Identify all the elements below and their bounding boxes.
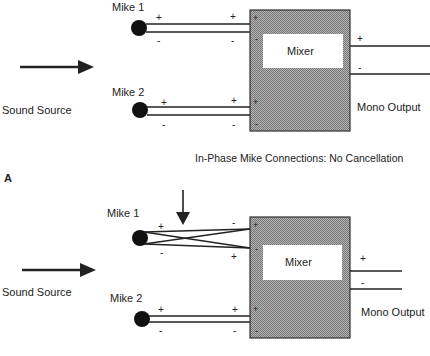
mike2-label-b: Mike 2	[110, 292, 142, 304]
mixer-label-b: Mixer	[285, 256, 312, 268]
mike2-far-neg-b: -	[233, 325, 236, 336]
mixer-label: Mixer	[287, 45, 314, 57]
output-neg-label-b: -	[361, 277, 364, 288]
sound-source-arrow-icon	[20, 60, 94, 74]
mike1-near-pos: +	[156, 12, 162, 23]
mike2-icon	[132, 102, 148, 118]
sound-source-label-b: Sound Source	[2, 286, 72, 298]
diagram-b: Sound Source Mike 1 + - - + Mike 2 + - +…	[2, 190, 425, 338]
mike1-far-top-b: -	[232, 217, 235, 228]
mono-output-label-b: Mono Output	[361, 306, 425, 318]
mono-output-label: Mono Output	[357, 101, 421, 113]
mixer-box-b: Mixer + - + -	[250, 217, 350, 338]
mike1-far-pos: +	[230, 11, 236, 22]
diagram-a: Sound Source Mike 1 + - + - Mike 2 + - +…	[2, 1, 430, 184]
mike1-icon	[131, 20, 147, 36]
mike1-near-neg-b: -	[160, 247, 163, 258]
phase-diagram: Sound Source Mike 1 + - + - Mike 2 + - +…	[0, 0, 430, 356]
mixer-in1-neg-b: -	[255, 244, 258, 254]
mike2-far-pos: +	[231, 95, 237, 106]
mixer-in2-pos: +	[253, 97, 258, 107]
sound-source-label: Sound Source	[2, 104, 72, 116]
mixer-in2-neg: -	[255, 119, 258, 129]
mike1-near-neg: -	[157, 35, 160, 46]
mixer-in1-pos-b: +	[253, 220, 258, 230]
output-neg-label: -	[358, 62, 361, 73]
mike2-near-pos: +	[161, 97, 167, 108]
mike2-near-neg: -	[162, 119, 165, 130]
down-arrow-icon	[176, 190, 190, 225]
mike2-far-neg: -	[232, 119, 235, 130]
mike2-near-pos-b: +	[158, 304, 164, 315]
mixer-box: Mixer + - + -	[250, 10, 350, 131]
mike1-label: Mike 1	[112, 1, 144, 13]
mike1-label-b: Mike 1	[107, 207, 139, 219]
mixer-in1-pos: +	[253, 13, 258, 23]
mike1-far-bottom-b: +	[231, 251, 237, 262]
mike2-label: Mike 2	[112, 86, 144, 98]
caption-a: In-Phase Mike Connections: No Cancellati…	[195, 152, 404, 164]
mike2-near-neg-b: -	[159, 325, 162, 336]
output-pos-label: +	[357, 33, 363, 44]
sound-source-arrow-icon	[22, 263, 96, 277]
mike1-far-neg: -	[231, 35, 234, 46]
mike2-far-pos-b: +	[232, 304, 238, 315]
panel-label-a: A	[4, 172, 12, 184]
mike2-icon-b	[134, 311, 150, 327]
mike1-near-pos-b: +	[158, 221, 164, 232]
output-pos-label-b: +	[360, 253, 366, 264]
mixer-in2-neg-b: -	[255, 326, 258, 336]
mixer-in1-neg: -	[255, 34, 258, 44]
mixer-in2-pos-b: +	[253, 304, 258, 314]
